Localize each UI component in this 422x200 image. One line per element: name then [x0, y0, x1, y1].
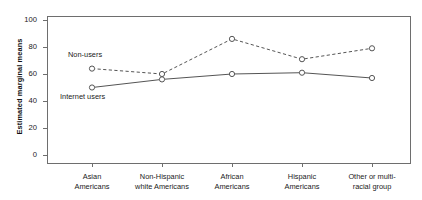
- series-markers: [89, 36, 374, 90]
- x-axis-tick-label: Other or multi-racial group: [322, 172, 422, 191]
- series-label-1: Non-users: [68, 50, 102, 59]
- y-axis-tick-label: 100: [11, 15, 37, 24]
- y-axis-tick-label: 40: [11, 96, 37, 105]
- data-point-marker: [299, 57, 304, 62]
- series-lines: [92, 39, 372, 88]
- x-axis-tick-label-line: Other or multi-: [322, 172, 422, 182]
- data-point-marker: [229, 71, 234, 76]
- data-point-marker: [89, 66, 94, 71]
- data-point-marker: [159, 77, 164, 82]
- y-axis-tick-label: 80: [11, 42, 37, 51]
- series-label-2: Internet users: [60, 92, 105, 101]
- y-axis-ticks: [43, 21, 47, 156]
- data-point-marker: [159, 71, 164, 76]
- series-line-1: [92, 39, 372, 74]
- y-axis-tick-label: 20: [11, 123, 37, 132]
- data-point-marker: [369, 75, 374, 80]
- data-point-marker: [369, 46, 374, 51]
- chart-figure: Estimated marginal means 020406080100 As…: [0, 0, 422, 200]
- data-point-marker: [299, 70, 304, 75]
- y-axis-tick-label: 0: [11, 150, 37, 159]
- data-point-marker: [229, 36, 234, 41]
- y-axis-tick-label: 60: [11, 69, 37, 78]
- x-axis-tick-label-line: racial group: [322, 182, 422, 192]
- data-point-marker: [89, 85, 94, 90]
